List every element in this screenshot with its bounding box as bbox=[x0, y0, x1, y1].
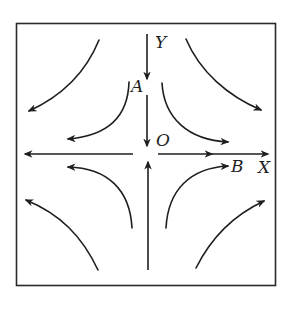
flow-line-lower-right-inner bbox=[166, 166, 228, 228]
point-a-label: A bbox=[129, 76, 143, 96]
flow-line-upper-left-inner bbox=[68, 82, 129, 139]
x-axis-label: X bbox=[256, 157, 271, 177]
saddle-point-diagram: Y A O B X bbox=[0, 0, 291, 310]
flow-line-lower-left-outer bbox=[26, 200, 98, 270]
flow-line-upper-right-inner bbox=[162, 83, 228, 142]
origin-o-label: O bbox=[156, 130, 170, 150]
flow-line-upper-left-outer bbox=[29, 40, 99, 111]
y-axis-label: Y bbox=[155, 32, 168, 52]
point-b-label: B bbox=[230, 156, 244, 176]
flow-line-lower-right-outer bbox=[196, 201, 264, 268]
flow-line-upper-right-outer bbox=[186, 39, 261, 110]
flow-line-lower-left-inner bbox=[68, 167, 132, 228]
